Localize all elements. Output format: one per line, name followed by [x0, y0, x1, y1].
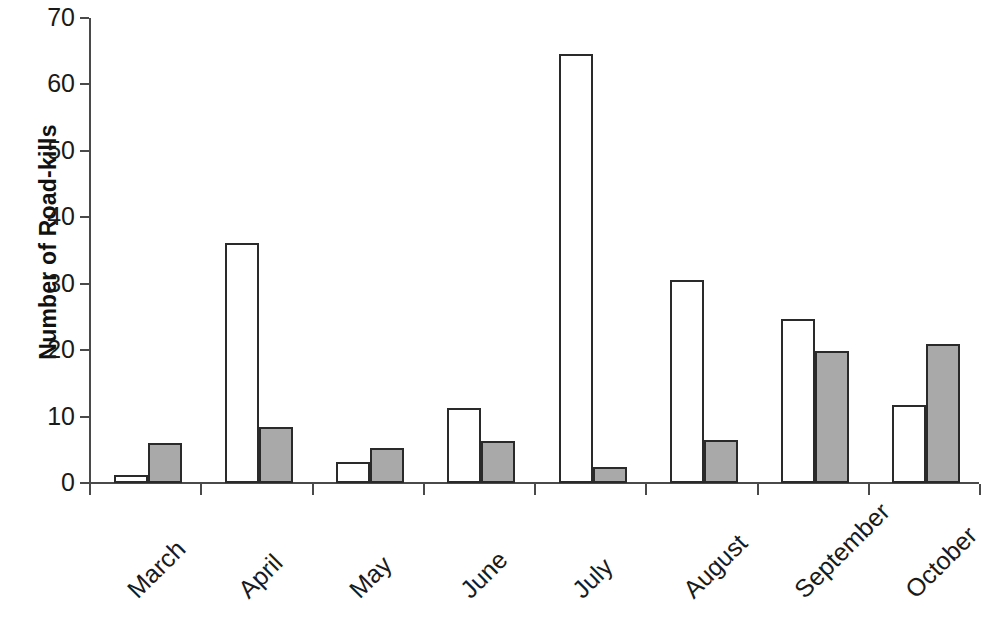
x-axis-label-july: July	[568, 554, 617, 603]
y-axis-tick	[80, 150, 89, 152]
y-axis-tick-label: 10	[15, 404, 75, 429]
y-axis-tick	[80, 216, 89, 218]
x-axis-tick	[868, 484, 870, 495]
x-axis-label-october: October	[901, 522, 982, 603]
x-axis-tick	[645, 484, 647, 495]
y-axis-tick-label: 50	[15, 138, 75, 163]
y-axis-tick-label: 0	[15, 470, 75, 495]
y-axis-tick	[80, 482, 89, 484]
x-axis-tick	[423, 484, 425, 495]
bar-july-series-1	[559, 54, 593, 483]
x-axis-label-august: August	[679, 530, 752, 603]
x-axis-tick	[534, 484, 536, 495]
bar-september-series-2	[815, 351, 849, 483]
y-axis-tick-label: 30	[15, 271, 75, 296]
x-axis-tick	[89, 484, 91, 495]
plot-area	[89, 18, 979, 483]
y-axis-tick-label: 60	[15, 71, 75, 96]
y-axis-tick	[80, 416, 89, 418]
bar-june-series-2	[481, 441, 515, 483]
bar-june-series-1	[447, 408, 481, 483]
y-axis-tick-label: 70	[15, 5, 75, 30]
bar-september-series-1	[781, 319, 815, 483]
y-axis-tick	[80, 349, 89, 351]
bar-chart: Number of Road-kills 010203040506070 Mar…	[0, 0, 986, 622]
x-axis-tick	[200, 484, 202, 495]
y-axis-tick-label: 20	[15, 337, 75, 362]
y-axis-tick	[80, 283, 89, 285]
bar-october-series-1	[892, 405, 926, 483]
y-axis-tick	[80, 83, 89, 85]
bar-may-series-2	[370, 448, 404, 483]
x-axis-label-september: September	[790, 499, 894, 603]
bar-may-series-1	[336, 462, 370, 483]
bar-august-series-2	[704, 440, 738, 483]
bar-april-series-2	[259, 427, 293, 483]
x-axis-tick	[312, 484, 314, 495]
bar-august-series-1	[670, 280, 704, 483]
x-axis-tick	[757, 484, 759, 495]
y-axis-tick	[80, 17, 89, 19]
bar-july-series-2	[593, 467, 627, 483]
bar-march-series-2	[148, 443, 182, 483]
bar-march-series-1	[114, 475, 148, 483]
y-axis-tick-label: 40	[15, 204, 75, 229]
x-axis-tick	[979, 484, 981, 495]
bar-april-series-1	[225, 243, 259, 483]
bar-october-series-2	[926, 344, 960, 484]
x-axis-label-june: June	[456, 547, 512, 603]
x-axis-label-may: May	[345, 552, 396, 603]
x-axis-label-march: March	[123, 536, 190, 603]
x-axis-label-april: April	[234, 550, 287, 603]
